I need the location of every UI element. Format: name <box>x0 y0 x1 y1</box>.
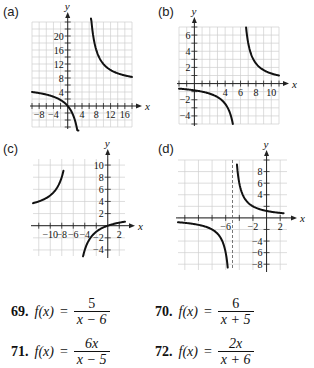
y-tick-label: 8 <box>258 166 263 177</box>
function-lhs: f(x) <box>35 344 54 360</box>
y-tick-label: −6 <box>252 247 263 258</box>
denominator: x − 6 <box>74 312 110 328</box>
exercise-number: 72. <box>155 344 173 360</box>
exercise-number: 71. <box>11 344 29 360</box>
equals-sign: = <box>204 344 212 360</box>
denominator: x − 5 <box>74 352 110 368</box>
y-tick-label: −4 <box>252 236 263 247</box>
x-tick-label: −6 <box>220 221 231 232</box>
y-axis-arrow <box>264 150 269 156</box>
numerator: 6x <box>82 336 101 351</box>
y-tick-label: −8 <box>252 259 263 270</box>
y-axis-label: y <box>263 138 269 150</box>
exercise-number: 70. <box>155 304 173 320</box>
exercise-70: 70. f(x) = 6 x + 5 <box>155 296 254 328</box>
x-axis-arrow <box>291 215 297 220</box>
y-tick-label: 6 <box>258 178 263 189</box>
exercise-71: 71. f(x) = 6x x − 5 <box>11 336 110 368</box>
axes: xy−6−22−8−6−4468 <box>176 138 305 272</box>
numerator: 2x <box>226 336 245 351</box>
function-lhs: f(x) <box>35 304 54 320</box>
equals-sign: = <box>60 344 68 360</box>
equals-sign: = <box>60 304 68 320</box>
equals-sign: = <box>204 304 212 320</box>
function-lhs: f(x) <box>179 304 198 320</box>
x-tick-label: −2 <box>248 221 259 232</box>
fraction: 2x x + 6 <box>218 336 254 368</box>
y-tick-label: 4 <box>258 189 263 200</box>
denominator: x + 5 <box>218 312 254 328</box>
x-axis-label: x <box>299 212 305 224</box>
exercise-number: 69. <box>11 304 29 320</box>
exercise-72: 72. f(x) = 2x x + 6 <box>155 336 254 368</box>
x-tick-label: 2 <box>278 221 283 232</box>
fraction: 6 x + 5 <box>218 296 254 328</box>
fraction: 5 x − 6 <box>74 296 110 328</box>
numerator: 5 <box>85 296 98 311</box>
exercise-69: 69. f(x) = 5 x − 6 <box>11 296 110 328</box>
numerator: 6 <box>229 296 242 311</box>
denominator: x + 6 <box>218 352 254 368</box>
function-lhs: f(x) <box>179 344 198 360</box>
fraction: 6x x − 5 <box>74 336 110 368</box>
